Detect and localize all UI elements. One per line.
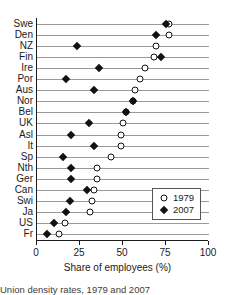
data-point-2007 [67,175,75,183]
category-label: Ger [16,174,33,184]
filled-diamond-icon [158,205,169,216]
data-point-2007 [157,53,165,61]
chart-legend: 1979 2007 [152,188,201,220]
category-label: Por [17,74,33,84]
gridline-row [37,90,209,91]
data-point-1979 [61,220,68,227]
figure-caption: Union density rates, 1979 and 2007 [0,284,235,295]
category-label: Ja [22,207,33,217]
legend-label-2007: 2007 [173,205,194,215]
gridline-row [37,68,209,69]
category-label: Fin [19,52,33,62]
open-circle-icon [158,193,169,204]
data-point-2007 [50,219,58,227]
data-point-1979 [90,187,97,194]
data-point-1979 [120,120,127,127]
data-point-2007 [67,164,75,172]
data-point-1979 [94,164,101,171]
data-point-1979 [137,76,144,83]
data-point-2007 [65,197,73,205]
data-point-2007 [62,208,70,216]
data-point-1979 [152,42,159,49]
data-point-2007 [84,119,92,127]
category-label: Sp [21,152,33,162]
category-label: Can [15,185,33,195]
category-label: Den [15,30,33,40]
data-point-2007 [43,230,51,238]
data-point-1979 [166,31,173,38]
x-axis-tick [36,241,37,245]
category-label: Nor [17,96,33,106]
x-axis-tick [208,241,209,245]
legend-label-1979: 1979 [173,193,194,203]
data-point-2007 [90,141,98,149]
x-axis-tick-label: 75 [159,247,170,258]
category-label: NZ [20,41,33,51]
x-axis-tick-label: 0 [33,247,39,258]
data-point-1979 [89,198,96,205]
category-label: Ire [21,63,33,73]
data-point-2007 [72,42,80,50]
data-point-2007 [122,108,130,116]
data-point-2007 [62,75,70,83]
data-point-1979 [94,175,101,182]
gridline-row [37,46,209,47]
category-label: US [19,218,33,228]
data-point-1979 [107,153,114,160]
category-label: Asl [19,130,33,140]
data-point-1979 [142,64,149,71]
category-label: Nth [17,163,33,173]
legend-item-2007: 2007 [158,204,194,216]
x-axis-title: Share of employees (%) [0,262,235,273]
data-point-1979 [132,87,139,94]
gridline-row [37,57,209,58]
data-point-1979 [56,231,63,238]
gridline-row [37,101,209,102]
category-label: UK [19,118,33,128]
x-axis-tick-label: 50 [116,247,127,258]
category-label: Bel [19,107,33,117]
gridline-row [37,168,209,169]
x-axis-tick [79,241,80,245]
category-label: Swi [17,196,33,206]
x-axis-tick [165,241,166,245]
gridline-row [37,24,209,25]
data-point-1979 [87,209,94,216]
gridline-row [37,179,209,180]
x-axis: 0255075100 [36,240,208,241]
gridline-row [37,35,209,36]
data-point-1979 [118,131,125,138]
data-point-2007 [59,153,67,161]
data-point-2007 [151,30,159,38]
category-label: Fr [24,229,33,239]
data-point-2007 [67,130,75,138]
data-point-2007 [95,64,103,72]
data-point-2007 [83,186,91,194]
x-axis-tick [122,241,123,245]
data-point-2007 [90,86,98,94]
category-label: It [27,141,33,151]
data-point-1979 [118,142,125,149]
x-axis-tick-label: 25 [73,247,84,258]
x-axis-tick-label: 100 [200,247,217,258]
category-axis-labels: SweDenNZFinIrePorAusNorBelUKAslItSpNthGe… [0,18,36,240]
category-label: Aus [16,85,33,95]
legend-item-1979: 1979 [158,192,194,204]
category-label: Swe [14,19,33,29]
data-point-2007 [129,97,137,105]
